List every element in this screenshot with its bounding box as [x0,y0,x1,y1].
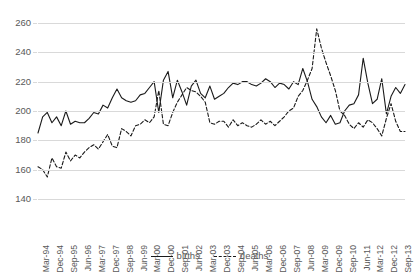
plot-area [38,23,405,199]
gridline-160 [38,170,405,171]
gridline-200 [38,111,405,112]
y-tick-mark [33,199,37,200]
y-axis: 260240220200180160140 [0,0,38,210]
y-tick-label: 140 [1,194,31,204]
legend-label: births [177,251,200,261]
legend-swatch-deaths [214,256,236,257]
legend-item-births[interactable]: births [151,251,200,261]
y-tick-mark [33,140,37,141]
chart-legend: birthsdeaths [0,246,419,266]
y-tick-label: 160 [1,165,31,175]
legend-label: deaths [240,251,269,261]
y-tick-mark [33,23,37,24]
gridline-220 [38,82,405,83]
y-tick-mark [33,111,37,112]
y-tick-mark [33,52,37,53]
legend-swatch-births [151,256,173,257]
series-line-births [38,58,405,133]
x-axis: Mar-94Dec-94Sep-95Jun-96Mar-97Dec-97Sep-… [38,201,405,247]
series-line-deaths [38,29,405,177]
y-tick-label: 240 [1,47,31,57]
gridline-180 [38,140,405,141]
y-tick-label: 260 [1,18,31,28]
y-tick-label: 200 [1,106,31,116]
legend-item-deaths[interactable]: deaths [214,251,269,261]
gridline-260 [38,23,405,24]
y-tick-label: 220 [1,77,31,87]
y-tick-label: 180 [1,135,31,145]
y-tick-mark [33,82,37,83]
y-tick-mark [33,170,37,171]
x-axis-line [38,199,405,200]
gridline-240 [38,52,405,53]
